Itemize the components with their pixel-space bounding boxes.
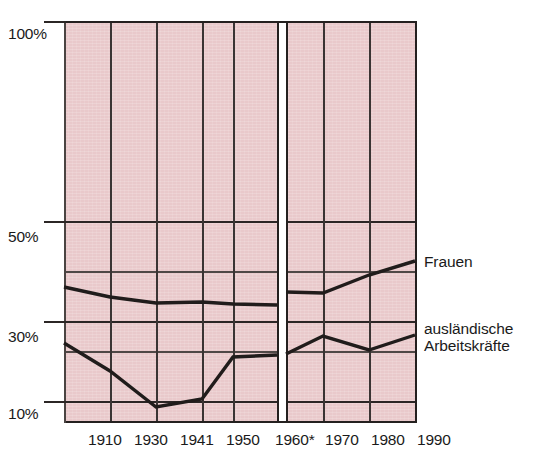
gridline-y-50	[64, 221, 416, 223]
ylabel-10: 10%	[8, 406, 62, 422]
gridline-x-1910	[110, 22, 112, 422]
gridline-y-30	[64, 321, 416, 323]
ytick-10	[44, 401, 66, 403]
gridline-x-1980	[369, 22, 371, 422]
xlabel-1941: 1941	[180, 432, 214, 448]
plot-frame-bottom	[64, 421, 417, 423]
xlabel-1930: 1930	[134, 432, 168, 448]
chart-container: 100% 50% 30% 10% 1910 1930 1941 1950 196…	[0, 0, 533, 471]
ylabel-100: 100%	[8, 26, 62, 42]
ylabel-30: 30%	[8, 329, 62, 345]
legend-label-frauen: Frauen	[424, 253, 473, 270]
axis-break-right-rule	[286, 22, 288, 422]
ytick-50	[44, 221, 66, 223]
gridline-x-1930	[156, 22, 158, 422]
xlabel-1960: 1960*	[275, 432, 315, 448]
plot-frame-top	[64, 21, 417, 23]
xlabel-1990: 1990	[417, 432, 451, 448]
xlabel-1970: 1970	[325, 432, 359, 448]
gridline-x-1970	[323, 22, 325, 422]
xlabel-1950: 1950	[226, 432, 260, 448]
gridline-x-1941	[202, 22, 204, 422]
plot-frame-right	[415, 21, 417, 423]
gridline-x-1950	[233, 22, 235, 422]
gridline-y-20	[64, 351, 416, 353]
ytick-30	[44, 321, 66, 323]
xlabel-1980: 1980	[371, 432, 405, 448]
cropped-title-remnant	[0, 0, 533, 11]
gridline-y-40	[64, 271, 416, 273]
ytick-100	[44, 21, 66, 23]
legend-label-auslaendische: ausländische Arbeitskräfte	[424, 320, 513, 354]
gridline-y-10	[64, 401, 416, 403]
ylabel-50: 50%	[8, 229, 62, 245]
axis-break-gap	[279, 22, 286, 422]
xlabel-1910: 1910	[88, 432, 122, 448]
